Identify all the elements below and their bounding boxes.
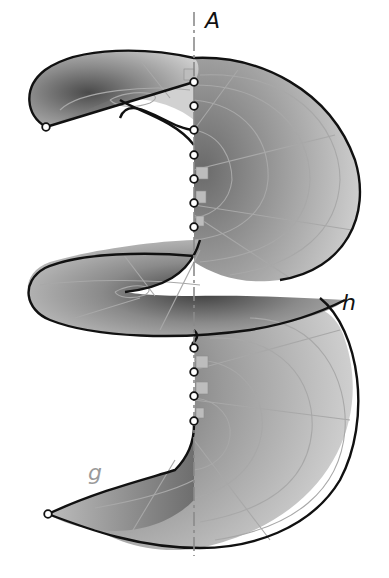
axis-point bbox=[190, 417, 198, 425]
axis-point bbox=[190, 199, 198, 207]
axis-point bbox=[190, 175, 198, 183]
bottom-tail bbox=[48, 425, 194, 531]
axis-point bbox=[190, 126, 198, 134]
endpoint-lower bbox=[44, 510, 52, 518]
endpoint-upper bbox=[42, 123, 50, 131]
axis-point bbox=[190, 223, 198, 231]
helicoid-diagram bbox=[0, 0, 389, 578]
helix-label: h bbox=[342, 292, 356, 314]
upper-right-lobe bbox=[194, 58, 360, 281]
axis-point bbox=[190, 344, 198, 352]
axis-point bbox=[190, 392, 198, 400]
axis-point bbox=[190, 78, 198, 86]
axis-label: A bbox=[205, 10, 220, 32]
axis-point bbox=[190, 368, 198, 376]
axis-point bbox=[190, 102, 198, 110]
generator-label: g bbox=[88, 462, 102, 484]
axis-point bbox=[190, 151, 198, 159]
